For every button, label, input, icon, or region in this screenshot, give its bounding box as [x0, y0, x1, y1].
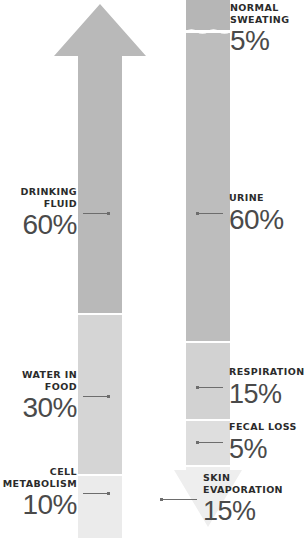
leader-line-drinking-fluid — [83, 213, 107, 214]
callout-urine-text: URINE 60% — [229, 192, 284, 235]
callout-skin-evaporation-text: SKIN EVAPORATION 15% — [203, 472, 283, 526]
leader-line-water-in-food — [83, 396, 107, 397]
callout-cell-metabolism-text: CELL METABOLISM 10% — [3, 466, 77, 520]
callout-urine: URINE 60% — [196, 192, 308, 235]
label-fecal-loss: FECAL LOSS — [229, 421, 297, 433]
leader-dot-water-in-food — [107, 395, 110, 398]
callout-respiration: RESPIRATION 15% — [196, 366, 308, 409]
water-balance-infographic: DRINKING FLUID 60% WATER IN FOOD 30% CEL… — [0, 0, 308, 540]
callout-fecal-loss-text: FECAL LOSS 5% — [229, 421, 297, 464]
intake-arrow — [52, 2, 148, 538]
leader-line-cell-metabolism — [83, 493, 107, 494]
label-water-in-food: WATER IN FOOD — [22, 369, 77, 392]
percent-respiration: 15% — [229, 379, 305, 409]
callout-cell-metabolism: CELL METABOLISM 10% — [0, 466, 110, 520]
callout-normal-sweating: NORMAL SWEATING 5% — [230, 2, 308, 56]
callout-water-in-food: WATER IN FOOD 30% — [0, 369, 110, 423]
label-urine: URINE — [229, 192, 284, 204]
percent-normal-sweating: 5% — [230, 26, 289, 56]
percent-water-in-food: 30% — [22, 393, 77, 423]
leader-dot-drinking-fluid — [107, 212, 110, 215]
percent-skin-evaporation: 15% — [203, 496, 283, 526]
callout-normal-sweating-text: NORMAL SWEATING 5% — [230, 2, 289, 56]
percent-fecal-loss: 5% — [229, 434, 297, 464]
leader-dot-cell-metabolism — [107, 492, 110, 495]
sweat-wavy-divider — [186, 30, 230, 33]
callout-respiration-text: RESPIRATION 15% — [229, 366, 305, 409]
callout-drinking-fluid: DRINKING FLUID 60% — [0, 186, 110, 240]
label-normal-sweating: NORMAL SWEATING — [230, 2, 289, 25]
leader-line-respiration — [199, 387, 223, 388]
callout-drinking-fluid-text: DRINKING FLUID 60% — [20, 186, 77, 240]
label-skin-evaporation: SKIN EVAPORATION — [203, 472, 283, 495]
segment-urine — [172, 33, 244, 341]
callout-skin-evaporation: SKIN EVAPORATION 15% — [160, 472, 308, 526]
percent-urine: 60% — [229, 205, 284, 235]
segment-drinking-fluid — [52, 2, 148, 313]
label-drinking-fluid: DRINKING FLUID — [20, 186, 77, 209]
label-cell-metabolism: CELL METABOLISM — [3, 466, 77, 489]
leader-line-fecal-loss — [199, 442, 223, 443]
label-respiration: RESPIRATION — [229, 366, 305, 378]
percent-cell-metabolism: 10% — [3, 490, 77, 520]
callout-water-in-food-text: WATER IN FOOD 30% — [22, 369, 77, 423]
callout-fecal-loss: FECAL LOSS 5% — [196, 421, 308, 464]
leader-line-skin-evaporation — [163, 499, 197, 500]
leader-line-urine — [199, 213, 223, 214]
percent-drinking-fluid: 60% — [20, 210, 77, 240]
